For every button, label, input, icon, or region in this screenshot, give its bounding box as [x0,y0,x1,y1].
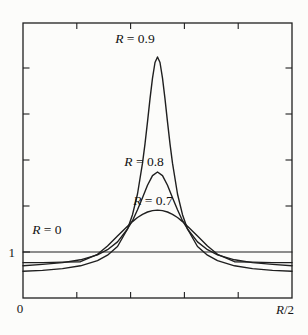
resonance-chart: R = 0R = 0.7R = 0.8R = 0.910R/2 [0,0,308,335]
figure-resonance-curves: R = 0R = 0.7R = 0.8R = 0.910R/2 [0,0,308,335]
curve-label-R-0.7: R = 0.7 [132,193,173,208]
x-axis-label-end: R/2 [275,302,294,317]
curve-label-R-0.9: R = 0.9 [114,31,155,46]
y-axis-label-1: 1 [9,245,16,260]
curve-label-R-0: R = 0 [31,222,62,237]
x-axis-label-0: 0 [17,301,24,316]
curve-R-0.7 [23,210,292,263]
curve-label-R-0.8: R = 0.8 [123,154,164,169]
